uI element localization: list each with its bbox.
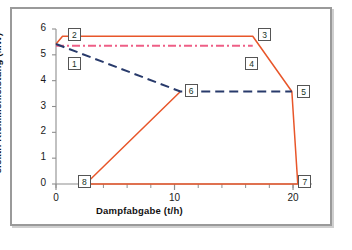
- x-axis-title: Dampfabgabe (t/h): [96, 205, 183, 216]
- series-solid: [56, 36, 298, 184]
- y-tick-label: 1: [30, 151, 46, 162]
- point-label-4: 4: [245, 57, 258, 70]
- y-axis-title: elektr. Klemmenleistung (MW): [0, 0, 3, 38]
- x-tick-label: 10: [165, 192, 185, 203]
- y-tick-label: 0: [30, 177, 46, 188]
- y-tick-label: 4: [30, 74, 46, 85]
- screenshot-root: elektr. Klemmenleistung (MW) Dampfabgabe…: [0, 0, 352, 250]
- x-tick-label: 0: [46, 192, 66, 203]
- series-group: [56, 36, 298, 184]
- point-label-7: 7: [298, 175, 311, 188]
- point-label-8: 8: [78, 175, 91, 188]
- point-label-6: 6: [185, 84, 198, 97]
- y-tick-label: 3: [30, 100, 46, 111]
- y-tick-label: 5: [30, 48, 46, 59]
- y-tick-label: 2: [30, 125, 46, 136]
- x-tick-label: 20: [283, 192, 303, 203]
- y-axis-title-text: elektr. Klemmenleistung (MW): [0, 28, 3, 178]
- point-label-2: 2: [68, 28, 81, 41]
- point-label-5: 5: [297, 85, 310, 98]
- point-label-3: 3: [258, 28, 271, 41]
- point-label-1: 1: [68, 57, 81, 70]
- y-tick-label: 6: [30, 22, 46, 33]
- axes-group: [52, 29, 312, 190]
